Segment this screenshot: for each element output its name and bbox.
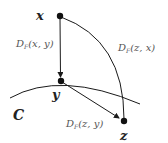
distance-label-zy: DF(z, y) xyxy=(65,118,103,130)
point-x-label: x xyxy=(35,8,44,23)
point-z-label: z xyxy=(119,128,128,143)
set-c-label: C xyxy=(13,107,24,123)
distance-label-xy: DF(x, y) xyxy=(15,38,54,50)
bregman-projection-diagram: x y z C DF(x, y) DF(z, x) DF(z, y) xyxy=(0,0,168,143)
point-x xyxy=(57,13,63,19)
point-y xyxy=(58,78,64,84)
distance-label-zx: DF(z, x) xyxy=(117,42,155,54)
arc-x-to-z xyxy=(61,17,124,119)
point-z xyxy=(121,118,127,124)
set-boundary-curve xyxy=(10,85,140,104)
arrow-y-to-z xyxy=(62,82,119,118)
arrow-x-to-y xyxy=(60,18,61,77)
point-y-label: y xyxy=(51,87,61,102)
